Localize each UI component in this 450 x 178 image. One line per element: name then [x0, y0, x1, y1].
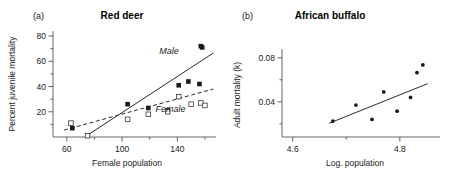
- panel-a-axis-spines: [53, 31, 216, 137]
- panel-b-title: African buffalo: [295, 10, 366, 21]
- x-tick-label: 60: [62, 144, 72, 154]
- data-point: [382, 90, 386, 94]
- data-point: [146, 112, 151, 117]
- fit-line-adult mortality: [329, 84, 428, 124]
- data-point: [370, 118, 374, 122]
- panel-a-data-points: [69, 44, 208, 138]
- data-point: [176, 94, 181, 99]
- y-tick-label: 60: [37, 56, 47, 66]
- x-tick-label: 100: [115, 144, 129, 154]
- data-point: [197, 82, 202, 87]
- series-label-female: Female: [155, 104, 185, 114]
- data-point: [69, 121, 74, 126]
- panel-b-tick-labels: 4.64.80.040.08: [258, 53, 406, 154]
- panel-a-ylabel: Percent juvenile mortality: [7, 36, 17, 132]
- x-tick-label: 140: [170, 144, 184, 154]
- y-tick-label: 0.08: [258, 53, 275, 63]
- data-point: [421, 63, 425, 67]
- data-point: [409, 96, 413, 100]
- data-point: [199, 44, 204, 49]
- data-point: [189, 102, 194, 107]
- data-point: [203, 103, 208, 108]
- panel-b-ylabel: Adult mortality (k): [232, 62, 242, 128]
- data-point: [85, 133, 90, 138]
- y-tick-label: 40: [37, 82, 47, 92]
- panel-a-xlabel: Female population: [92, 158, 162, 168]
- panel-a-title: Red deer: [101, 10, 144, 21]
- data-point: [415, 71, 419, 75]
- y-tick-label: 0.04: [258, 97, 275, 107]
- panel-b-axis-ticks: [278, 58, 400, 142]
- panel-african-buffalo: (b) African buffalo 4.64.80.040.08 Log. …: [225, 0, 450, 178]
- panel-b-xlabel: Log. population: [326, 158, 384, 168]
- data-point: [395, 109, 399, 113]
- panel-red-deer: (a) Red deer 6010014020406080 MaleFemale…: [0, 0, 225, 178]
- data-point: [125, 102, 130, 107]
- figure-container: (a) Red deer 6010014020406080 MaleFemale…: [0, 0, 450, 178]
- fit-line-female: [64, 89, 213, 130]
- data-point: [354, 103, 358, 107]
- data-point: [331, 119, 335, 123]
- data-point: [146, 106, 151, 111]
- panel-b-label: (b): [242, 11, 253, 21]
- data-point: [125, 117, 130, 122]
- x-tick-label: 4.8: [394, 144, 406, 154]
- x-tick-label: 4.6: [287, 144, 299, 154]
- panel-a-label: (a): [33, 11, 44, 21]
- panel-b-data-points: [331, 63, 425, 123]
- panel-a-series-labels: MaleFemale: [155, 46, 185, 114]
- y-tick-label: 80: [37, 31, 47, 41]
- y-tick-label: 20: [37, 107, 47, 117]
- panel-b-plot: (b) African buffalo 4.64.80.040.08 Log. …: [225, 0, 450, 178]
- data-point: [186, 79, 191, 84]
- panel-b-axis-spines: [282, 49, 440, 137]
- panel-a-fit-lines: [64, 53, 213, 135]
- data-point: [176, 83, 181, 88]
- data-point: [70, 126, 75, 131]
- series-label-male: Male: [159, 46, 179, 56]
- panel-b-fit-lines: [329, 84, 428, 124]
- panel-a-plot: (a) Red deer 6010014020406080 MaleFemale…: [0, 0, 225, 178]
